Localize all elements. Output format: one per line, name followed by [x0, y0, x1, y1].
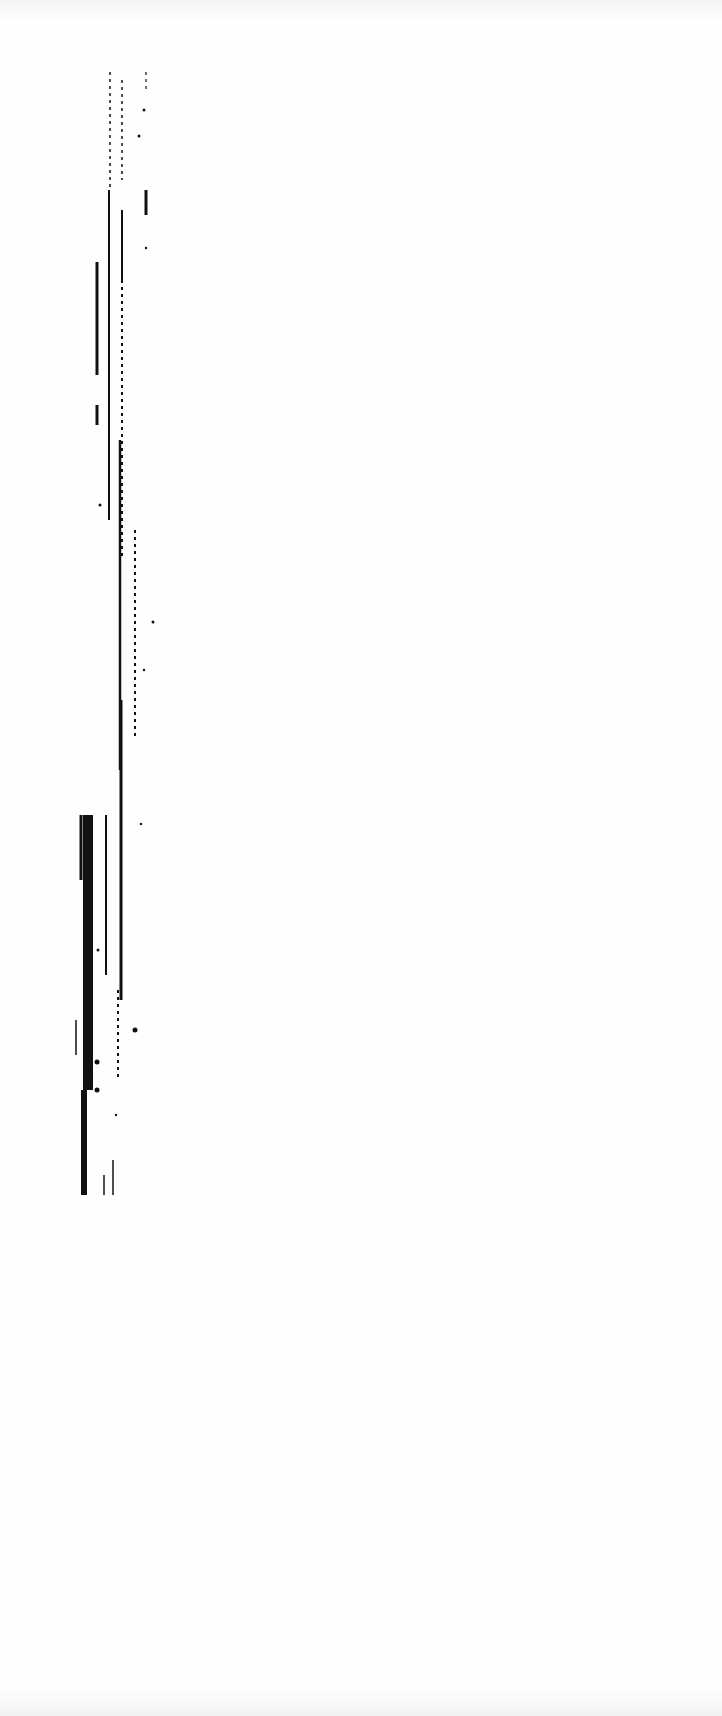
scan-dot-mark	[143, 109, 146, 112]
scan-dot-mark	[145, 247, 147, 249]
scan-dot-mark	[133, 1028, 138, 1033]
scan-dot-mark	[115, 1114, 117, 1116]
scan-dot-mark	[95, 1088, 100, 1093]
scan-dot-mark	[152, 621, 155, 624]
scan-dot-mark	[97, 949, 100, 952]
scan-artifact-marks	[0, 0, 722, 1716]
scan-dot-mark	[140, 823, 142, 825]
scan-dot-mark	[143, 669, 145, 671]
scanned-document-page	[0, 0, 722, 1716]
scan-dot-mark	[99, 504, 102, 507]
bottom-edge-bleed-through	[0, 1690, 722, 1716]
scan-dot-mark	[138, 135, 141, 138]
scan-dot-mark	[95, 1060, 100, 1065]
